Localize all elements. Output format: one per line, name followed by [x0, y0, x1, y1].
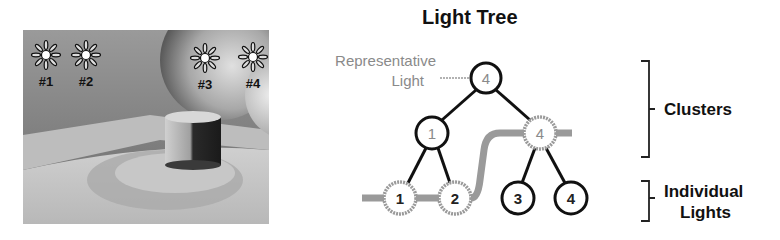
- tree-node-leaf-2: 2: [439, 182, 471, 214]
- tree-node-cluster-1: 1: [416, 117, 448, 149]
- svg-text:4: 4: [567, 190, 576, 207]
- annotation-representative: Representative: [335, 52, 436, 69]
- individual-label: Individual: [664, 182, 743, 201]
- light-tree-diagram: 4 1 4 1 2 3 4 Representative Light Clust…: [0, 0, 780, 240]
- svg-text:1: 1: [428, 125, 436, 142]
- lights-label: Lights: [680, 203, 731, 222]
- clusters-bracket: [641, 61, 655, 157]
- svg-text:2: 2: [451, 190, 459, 207]
- svg-text:4: 4: [482, 70, 490, 87]
- tree-node-leaf-3: 3: [502, 182, 534, 214]
- tree-node-cluster-4: 4: [524, 117, 556, 149]
- tree-node-leaf-1: 1: [384, 182, 416, 214]
- svg-text:1: 1: [396, 190, 404, 207]
- individual-lights-bracket: [641, 181, 655, 221]
- tree-node-leaf-4: 4: [555, 182, 587, 214]
- svg-text:3: 3: [514, 190, 522, 207]
- clusters-label: Clusters: [664, 100, 732, 119]
- svg-text:4: 4: [536, 125, 544, 142]
- tree-node-root: 4: [471, 63, 501, 93]
- annotation-light: Light: [391, 72, 424, 89]
